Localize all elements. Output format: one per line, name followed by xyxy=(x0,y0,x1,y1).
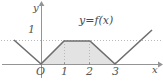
y-axis-arrow-icon xyxy=(39,1,45,6)
x-axis-arrow-icon xyxy=(158,62,163,68)
math-figure: y x 1 O 1 2 3 y=f(x) xyxy=(0,0,163,83)
x-axis-label: x xyxy=(152,65,158,75)
x-tick-label-2: 2 xyxy=(86,66,93,77)
function-plot xyxy=(0,0,163,83)
curve-equation-label: y=f(x) xyxy=(79,15,113,26)
origin-label: O xyxy=(36,66,45,77)
y-axis-label: y xyxy=(33,3,39,13)
y-tick-label-1: 1 xyxy=(28,24,35,35)
x-tick-label-1: 1 xyxy=(61,66,68,77)
x-tick-label-3: 3 xyxy=(112,66,119,77)
